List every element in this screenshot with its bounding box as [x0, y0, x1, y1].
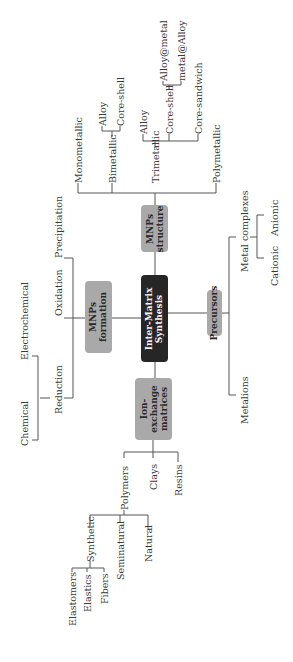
- label-alloy-at-metal: Alloy@metal: [158, 20, 169, 81]
- node-label: structure: [155, 205, 165, 252]
- label-cationic: Cationic: [269, 246, 280, 286]
- node-ion-exchange-matrices: Ion-exchangematrices: [135, 378, 172, 440]
- node-label: formation: [99, 292, 109, 342]
- label-metal-at-alloy: metal@Alloy: [176, 20, 187, 81]
- label-synthetic: Synthetic: [85, 516, 96, 562]
- label-polymers: Polymers: [119, 466, 130, 510]
- label-trimetallic-core-sandwich: Core-sandwich: [193, 62, 204, 134]
- label-trimetallic: Trimetallic: [150, 131, 161, 183]
- label-seminatural: Seminatural: [115, 521, 126, 580]
- label-trimetallic-core-shell: Core-shell: [164, 85, 175, 134]
- central-node-label-line2: Synthesis: [155, 287, 165, 350]
- label-oxidation: Oxidation: [53, 269, 64, 316]
- label-elastomers: Elastomers: [67, 572, 78, 626]
- central-node-inter-matrix-synthesis: Inter-MatrixSynthesis: [141, 275, 168, 362]
- label-monometallic: Monometallic: [73, 117, 84, 183]
- label-reduction: Reduction: [53, 365, 64, 414]
- node-label: exchange: [149, 385, 159, 433]
- label-fibers: Fibers: [99, 573, 110, 604]
- node-label: Precursors: [210, 286, 220, 341]
- label-metal-complexes: Metal complexes: [239, 190, 250, 272]
- label-bimetallic-alloy: Alloy: [97, 102, 108, 126]
- label-trimetallic-alloy: Alloy: [138, 110, 149, 134]
- node-label: MNPs: [145, 205, 155, 252]
- label-chemical: Chemical: [19, 401, 30, 446]
- label-bimetallic: Bimetallic: [107, 134, 118, 183]
- label-precipitation: Precipitation: [53, 196, 64, 258]
- label-anionic: Anionic: [269, 200, 280, 236]
- node-precursors: Precursors: [207, 290, 222, 336]
- node-label: MNPs: [89, 292, 99, 342]
- label-bimetallic-core-shell: Core-shell: [115, 77, 126, 126]
- label-elastics: Elastics: [82, 574, 93, 612]
- node-mnps-structure: MNPsstructure: [141, 205, 168, 252]
- label-clays: Clays: [148, 464, 159, 490]
- label-metalions: Metalions: [239, 376, 250, 424]
- label-electrochemical: Electrochemical: [19, 282, 30, 360]
- inter-matrix-synthesis-diagram: Inter-MatrixSynthesis MNPsstructure MNPs…: [0, 0, 293, 662]
- label-natural: Natural: [143, 525, 154, 562]
- node-label: Ion-: [139, 385, 149, 433]
- node-label: matrices: [159, 385, 169, 433]
- label-polymetallic: Polymetallic: [211, 124, 222, 183]
- label-resins: Resins: [173, 464, 184, 496]
- node-mnps-formation: MNPsformation: [85, 281, 112, 353]
- central-node-label-line1: Inter-Matrix: [145, 287, 155, 350]
